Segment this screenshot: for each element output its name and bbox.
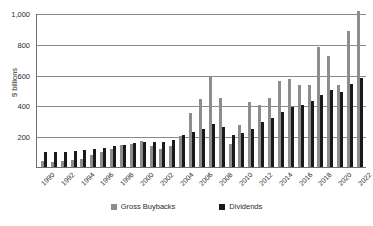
- y-axis-tick-label: 1,000: [11, 10, 30, 19]
- bar-group: [355, 14, 365, 167]
- bar-group: [246, 14, 256, 167]
- bar-dividends: [301, 105, 304, 167]
- y-axis-tick-labels: 2004006008001,000: [0, 14, 34, 168]
- legend-swatch-icon: [219, 204, 225, 210]
- bar-dividends: [251, 129, 254, 168]
- bar-group: [197, 14, 207, 167]
- x-axis-slot: [325, 169, 335, 201]
- bar-dividends: [113, 146, 116, 167]
- bar-dividends: [291, 107, 294, 167]
- x-axis-slot: [167, 169, 177, 201]
- x-axis-slot: 1998: [117, 169, 127, 201]
- bar-dividends: [360, 78, 363, 167]
- bar-group: [325, 14, 335, 167]
- bar-group: [79, 14, 89, 167]
- bar-dividends: [202, 129, 205, 168]
- y-axis-tick-label: 600: [17, 71, 30, 80]
- bar-group: [88, 14, 98, 167]
- bar-dividends: [93, 149, 96, 167]
- bar-dividends: [83, 150, 86, 167]
- x-axis-slot: [48, 169, 58, 201]
- x-axis-slot: 2006: [197, 169, 207, 201]
- bar-dividends: [103, 148, 106, 167]
- bar-group: [335, 14, 345, 167]
- x-axis-slot: [246, 169, 256, 201]
- x-axis-slot: 1994: [78, 169, 88, 201]
- bar-group: [266, 14, 276, 167]
- x-axis-slot: 2022: [355, 169, 365, 201]
- x-axis-slot: [345, 169, 355, 201]
- bar-dividends: [222, 127, 225, 167]
- x-axis-slot: 2008: [216, 169, 226, 201]
- x-axis-slot: 1992: [58, 169, 68, 201]
- bar-group: [276, 14, 286, 167]
- y-axis-tick-label: 200: [17, 133, 30, 142]
- bar-dividends: [350, 84, 353, 167]
- x-axis-tick-label: 2022: [357, 171, 373, 187]
- x-axis-slot: [286, 169, 296, 201]
- bar-group: [158, 14, 168, 167]
- bar-group: [167, 14, 177, 167]
- bar-dividends: [123, 145, 126, 167]
- chart-legend: Gross BuybacksDividends: [0, 202, 373, 211]
- x-axis-slot: 2020: [335, 169, 345, 201]
- bar-group: [177, 14, 187, 167]
- bar-dividends: [182, 135, 185, 167]
- buybacks-dividends-chart: $ billions 2004006008001,000 19901992199…: [0, 0, 373, 226]
- bar-dividends: [162, 142, 165, 167]
- bar-group: [108, 14, 118, 167]
- x-axis-slot: [68, 169, 78, 201]
- y-axis-tick-label: 400: [17, 102, 30, 111]
- bar-group: [306, 14, 316, 167]
- bar-dividends: [212, 124, 215, 167]
- bar-dividends: [232, 135, 235, 167]
- bar-dividends: [320, 95, 323, 167]
- bar-dividends: [153, 142, 156, 167]
- bar-group: [296, 14, 306, 167]
- x-axis-slot: [305, 169, 315, 201]
- bar-group: [148, 14, 158, 167]
- bar-dividends: [311, 101, 314, 167]
- x-axis-slot: [266, 169, 276, 201]
- x-axis-slot: 2014: [276, 169, 286, 201]
- legend-label: Dividends: [229, 202, 262, 211]
- bar-group: [227, 14, 237, 167]
- bar-group: [207, 14, 217, 167]
- y-axis-tick-label: 800: [17, 40, 30, 49]
- bar-group: [69, 14, 79, 167]
- legend-item[interactable]: Dividends: [219, 202, 262, 211]
- bar-dividends: [271, 118, 274, 167]
- bar-groups: [37, 14, 366, 167]
- bar-dividends: [54, 152, 57, 167]
- bar-dividends: [281, 112, 284, 167]
- bar-dividends: [74, 151, 77, 167]
- x-axis-slot: 2016: [296, 169, 306, 201]
- legend-item[interactable]: Gross Buybacks: [111, 202, 176, 211]
- bar-group: [316, 14, 326, 167]
- x-axis-slot: [226, 169, 236, 201]
- bar-group: [39, 14, 49, 167]
- bar-dividends: [340, 92, 343, 167]
- x-axis-slot: 1990: [38, 169, 48, 201]
- bar-group: [98, 14, 108, 167]
- bar-dividends: [44, 152, 47, 167]
- legend-label: Gross Buybacks: [121, 202, 176, 211]
- bar-group: [118, 14, 128, 167]
- x-axis-slot: [147, 169, 157, 201]
- bar-dividends: [330, 90, 333, 167]
- bar-group: [128, 14, 138, 167]
- bar-group: [187, 14, 197, 167]
- bar-group: [286, 14, 296, 167]
- x-axis-slot: [127, 169, 137, 201]
- bar-dividends: [261, 122, 264, 167]
- bar-group: [49, 14, 59, 167]
- x-axis-slot: [206, 169, 216, 201]
- bar-dividends: [172, 140, 175, 167]
- bar-dividends: [192, 132, 195, 167]
- bar-group: [59, 14, 69, 167]
- bar-dividends: [64, 152, 67, 167]
- x-axis-tick-labels: 1990199219941996199820002002200420062008…: [36, 169, 366, 201]
- bar-dividends: [133, 143, 136, 167]
- x-axis-slot: 1996: [97, 169, 107, 201]
- bar-group: [217, 14, 227, 167]
